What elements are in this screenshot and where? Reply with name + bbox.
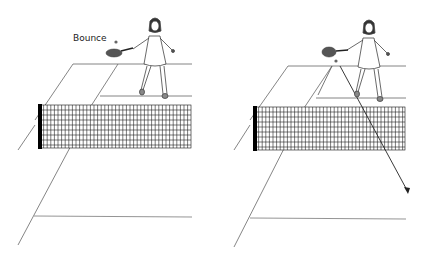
racket-icon <box>106 48 133 57</box>
tennis-ball-icon <box>114 40 117 43</box>
bounce-label: Bounce <box>73 33 107 43</box>
tennis-player <box>347 20 390 102</box>
tennis-net <box>38 104 191 149</box>
net-post <box>38 104 42 149</box>
arrowhead-icon <box>404 187 410 194</box>
racket-icon <box>322 47 348 57</box>
tennis-ball-icon <box>334 59 337 62</box>
court-diagram-right <box>212 0 424 258</box>
tennis-player <box>133 18 175 99</box>
panel-trajectory <box>212 0 424 258</box>
panel-bounce: Bounce <box>0 0 212 258</box>
net-post <box>253 106 257 151</box>
